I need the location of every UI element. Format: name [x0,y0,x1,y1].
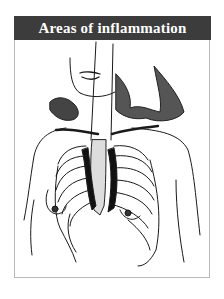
jaw-left [70,58,80,93]
shoulder-right [132,128,200,235]
nipple-right [125,210,131,216]
chin [80,92,115,97]
ribs-right [110,146,159,266]
neck-line-left [91,42,96,140]
shoulder-left [24,128,66,220]
waist-right [176,180,184,262]
neck-line-right [111,44,113,140]
waist-left [31,200,34,255]
hair-left [50,98,78,121]
figure-title: Areas of inflammation [14,16,211,40]
torso-illustration [15,40,210,277]
hair-right [116,66,184,121]
lips [80,72,100,79]
nipple-left [52,206,58,212]
